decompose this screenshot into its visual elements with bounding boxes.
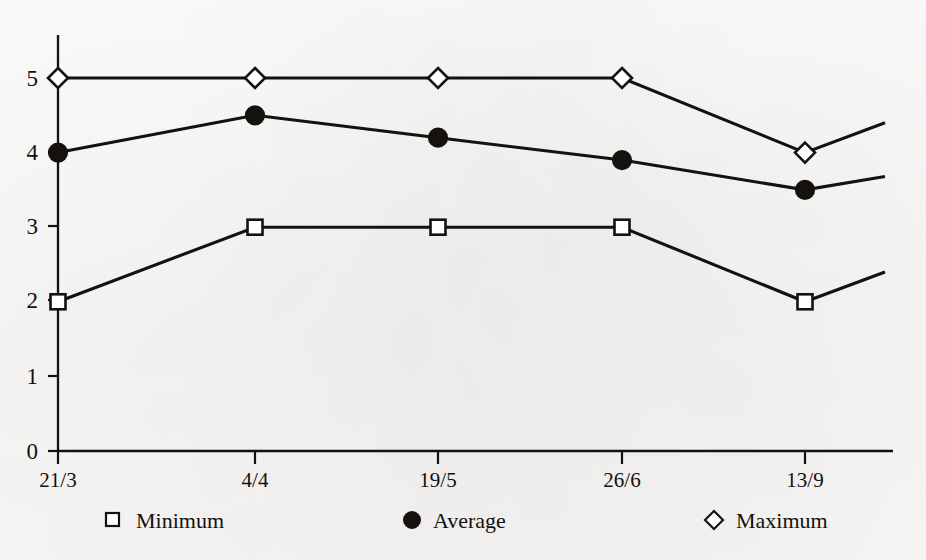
y-axis-label-4: 4 [27,140,39,165]
series-average [49,106,885,199]
series-line-minimum [58,227,885,302]
legend-label-average: Average [433,508,506,533]
data-point-average-13-9[interactable] [796,181,814,199]
axes-group [58,35,893,451]
x-axis-label-13-9: 13/9 [786,468,823,492]
y-axis-label-3: 3 [27,214,39,239]
y-axis-label-2: 2 [27,288,39,313]
series-minimum [51,220,886,310]
data-point-minimum-21-3[interactable] [51,294,66,309]
series-line-average [58,115,885,190]
data-point-maximum-4-4[interactable] [245,68,265,88]
legend-label-minimum: Minimum [136,508,224,533]
series-layer [48,68,885,309]
x-axis-label-26-6: 26/6 [603,468,640,492]
data-point-maximum-13-9[interactable] [795,143,815,163]
series-maximum [48,68,885,163]
data-point-average-21-3[interactable] [49,144,67,162]
x-tick-marks [58,451,805,464]
x-axis-label-21-3: 21/3 [39,468,76,492]
data-point-average-19-5[interactable] [429,129,447,147]
legend-item-average[interactable]: Average [404,508,506,533]
x-axis-label-4-4: 4/4 [242,468,269,492]
data-point-maximum-19-5[interactable] [428,68,448,88]
legend-item-minimum[interactable]: Minimum [106,508,224,533]
data-point-minimum-26-6[interactable] [615,220,630,235]
data-point-minimum-4-4[interactable] [248,220,263,235]
line-chart-figure: 5 4 3 2 1 0 21/3 4/4 19/5 26/6 13/9 [0,0,926,560]
data-point-minimum-13-9[interactable] [798,294,813,309]
data-point-minimum-19-5[interactable] [431,220,446,235]
filled-circle-marker-icon [404,512,420,528]
chart-svg: 5 4 3 2 1 0 21/3 4/4 19/5 26/6 13/9 [0,0,926,560]
legend-label-maximum: Maximum [736,508,828,533]
y-axis-label-5: 5 [27,66,39,91]
y-tick-marks [48,78,58,451]
open-square-marker-icon [106,513,119,526]
data-point-average-4-4[interactable] [246,106,264,124]
open-diamond-marker-icon [705,511,723,529]
y-axis-label-1: 1 [27,364,39,389]
data-point-maximum-26-6[interactable] [612,68,632,88]
legend-item-maximum[interactable]: Maximum [705,508,828,533]
y-tick-labels: 5 4 3 2 1 0 [27,66,39,464]
y-axis-label-0: 0 [27,439,39,464]
x-axis-label-19-5: 19/5 [419,468,456,492]
x-tick-labels: 21/3 4/4 19/5 26/6 13/9 [39,468,823,492]
legend: Minimum Average Maximum [106,508,828,533]
data-point-maximum-21-3[interactable] [48,68,68,88]
data-point-average-26-6[interactable] [613,151,631,169]
